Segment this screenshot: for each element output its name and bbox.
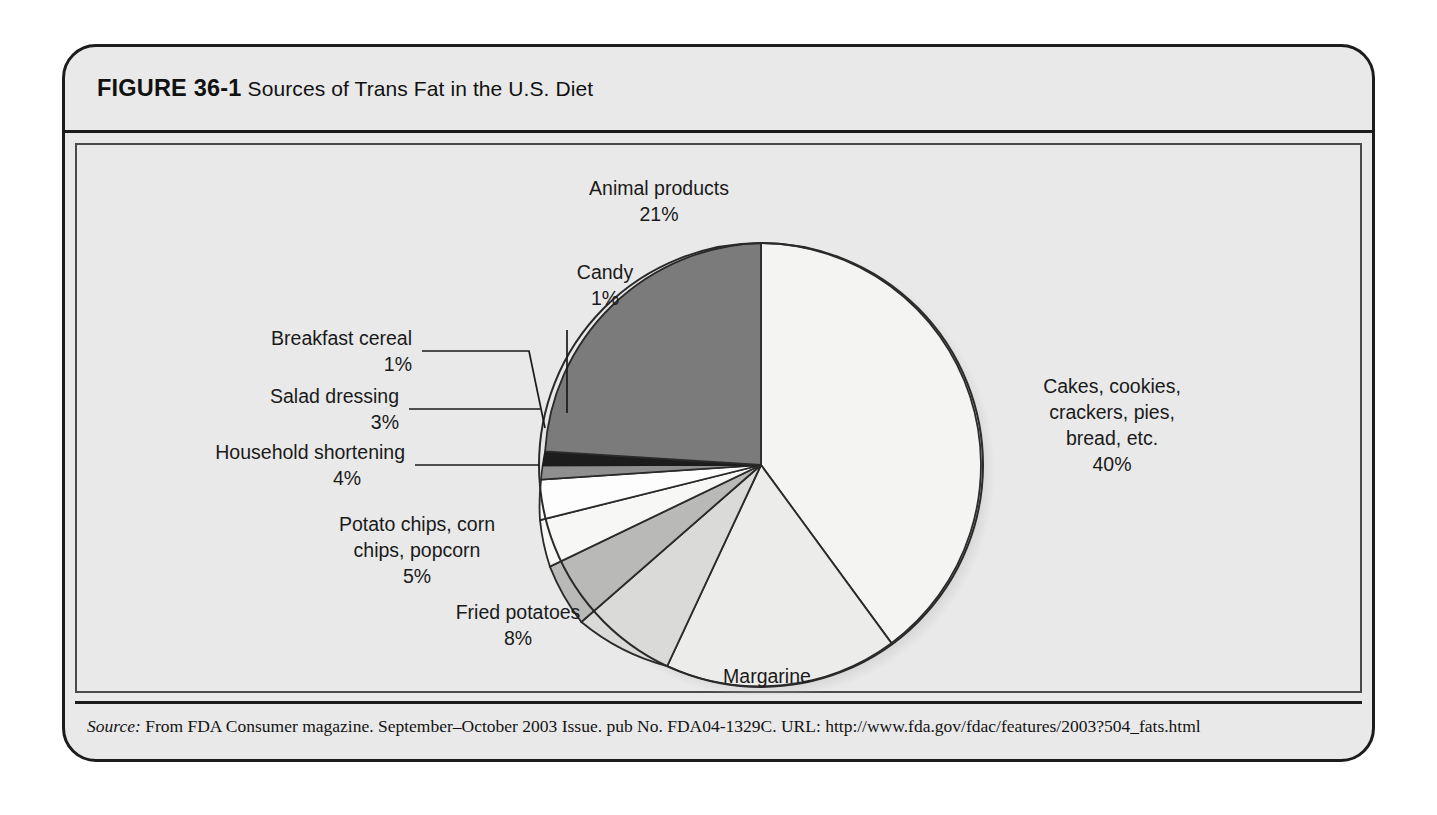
label-salad-dressing-name: Salad dressing (270, 385, 399, 407)
figure-number: FIGURE 36-1 (97, 75, 242, 101)
label-potato-chips-name-line2: chips, popcorn (354, 539, 481, 561)
label-cakes-name-line3: bread, etc. (1066, 427, 1158, 449)
chart-plot-panel: Animal products 21% Candy 1% Breakfast c… (75, 143, 1362, 693)
label-animal-products-name: Animal products (589, 177, 729, 199)
source-label: Source: (87, 716, 141, 736)
figure-root: FIGURE 36-1Sources of Trans Fat in the U… (0, 0, 1437, 815)
source-caption: Source: From FDA Consumer magazine. Sept… (87, 716, 1201, 737)
label-margarine-value: 17% (747, 691, 786, 695)
label-candy-value: 1% (591, 287, 619, 309)
label-fried-potatoes-name: Fried potatoes (456, 601, 581, 623)
label-margarine-name: Margarine (723, 665, 811, 687)
label-fried-potatoes-value: 8% (504, 627, 532, 649)
figure-header: FIGURE 36-1Sources of Trans Fat in the U… (65, 47, 1372, 133)
label-salad-dressing-value: 3% (371, 411, 399, 433)
label-animal-products-value: 21% (639, 203, 678, 225)
label-breakfast-cereal-value: 1% (384, 353, 412, 375)
figure-title: FIGURE 36-1Sources of Trans Fat in the U… (97, 75, 593, 102)
label-household-shortening-name: Household shortening (215, 441, 405, 463)
figure-frame: FIGURE 36-1Sources of Trans Fat in the U… (62, 44, 1375, 762)
label-cakes-name-line1: Cakes, cookies, (1043, 375, 1181, 397)
label-breakfast-cereal-name: Breakfast cereal (271, 327, 412, 349)
figure-title-text: Sources of Trans Fat in the U.S. Diet (248, 77, 594, 100)
pie-slices (540, 243, 981, 686)
leader-line-breakfast-cereal (422, 351, 545, 428)
pie-chart: Animal products 21% Candy 1% Breakfast c… (77, 145, 1364, 695)
label-potato-chips-name-line1: Potato chips, corn (339, 513, 495, 535)
source-bar: Source: From FDA Consumer magazine. Sept… (75, 701, 1362, 749)
label-candy-name: Candy (577, 261, 634, 283)
label-cakes-value: 40% (1092, 453, 1131, 475)
label-household-shortening-value: 4% (333, 467, 361, 489)
label-potato-chips-value: 5% (403, 565, 431, 587)
source-body: From FDA Consumer magazine. September–Oc… (141, 716, 1201, 736)
label-cakes-name-line2: crackers, pies, (1049, 401, 1175, 423)
